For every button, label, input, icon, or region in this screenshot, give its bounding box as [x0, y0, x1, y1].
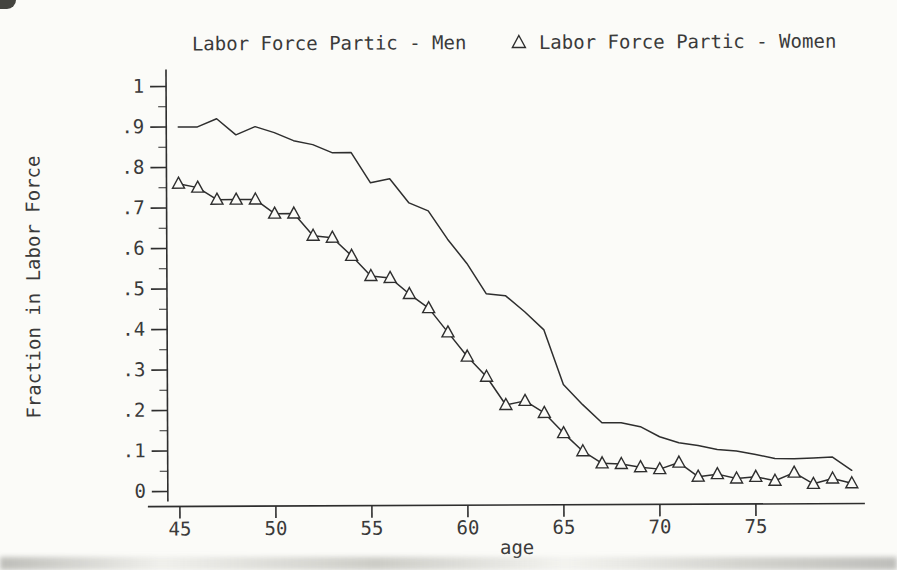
- triangle-marker-icon: [512, 35, 525, 47]
- women-data-marker: [596, 457, 608, 468]
- women-data-marker: [711, 468, 723, 479]
- women-data-marker: [288, 207, 300, 218]
- y-tick-label: .9: [121, 115, 144, 137]
- y-tick-label: .3: [122, 358, 145, 380]
- scanned-chart-page: Labor Force Partic - Men Labor Force Par…: [0, 0, 897, 570]
- women-data-marker: [788, 466, 800, 477]
- y-tick-label: .4: [122, 318, 145, 340]
- y-tick-label: .7: [122, 196, 145, 218]
- women-series-line: [178, 181, 851, 487]
- women-data-marker: [827, 472, 839, 483]
- women-data-marker: [538, 406, 550, 417]
- women-data-marker: [519, 394, 531, 405]
- scan-artifact-bottom-edge: [0, 557, 897, 570]
- labor-force-participation-chart: Labor Force Partic - Men Labor Force Par…: [0, 0, 897, 570]
- x-tick-label: 45: [169, 517, 192, 539]
- x-tick-label: 50: [264, 517, 287, 539]
- y-tick-label: .2: [123, 399, 146, 421]
- x-tick-label: 75: [744, 515, 767, 537]
- y-tick-label: 0: [134, 480, 146, 502]
- x-tick-label: 60: [456, 516, 479, 538]
- y-tick-label: 1: [133, 75, 145, 97]
- legend-men-label: Labor Force Partic - Men: [192, 31, 467, 54]
- y-axis-title: Fraction in Labor Force: [21, 156, 44, 419]
- x-tick-label: 70: [648, 515, 671, 537]
- y-axis-line: [166, 70, 168, 502]
- chart-legend: Labor Force Partic - Men Labor Force Par…: [192, 30, 837, 55]
- y-tick-label: .5: [122, 277, 145, 299]
- women-data-marker: [750, 470, 762, 481]
- y-tick-label: .1: [123, 439, 146, 461]
- x-axis-title: age: [500, 536, 534, 558]
- y-tick-label: .8: [121, 156, 144, 178]
- x-tick-label: 65: [552, 516, 575, 538]
- women-data-marker: [211, 193, 223, 204]
- women-data-marker: [269, 207, 281, 218]
- women-data-marker: [403, 288, 415, 299]
- women-data-marker: [249, 193, 261, 204]
- women-data-marker: [673, 456, 685, 467]
- y-tick-label: .6: [122, 237, 145, 259]
- legend-women-label: Labor Force Partic - Women: [539, 30, 837, 53]
- women-data-marker: [423, 302, 435, 313]
- x-tick-label: 55: [360, 517, 383, 539]
- women-data-marker: [615, 458, 627, 469]
- men-series-line: [178, 116, 852, 473]
- women-data-marker: [230, 193, 242, 204]
- women-data-marker: [172, 177, 184, 188]
- x-axis-line: [148, 503, 865, 506]
